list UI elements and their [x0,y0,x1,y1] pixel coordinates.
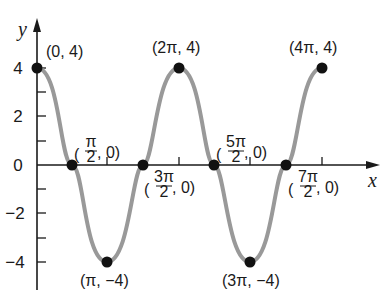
label-5pi-2-0: ( 5π 2 , 0) [216,133,267,165]
label-7pi-2-0: ( 7π 2 , 0) [288,168,339,200]
label-3pi-2-0: ( 3π 2 , 0) [144,168,195,200]
chart-container: 4 2 0 −2 −4 y x (0, 4) (2π, 4) (4π, 4) (… [0,0,390,303]
y-axis: 4 2 0 −2 −4 y [5,18,46,290]
svg-text:(: ( [144,181,150,198]
label-0-4: (0, 4) [46,43,83,60]
point-7pi-2-0 [281,160,292,171]
y-axis-label: y [16,18,27,41]
svg-text:2: 2 [160,183,169,200]
label-4pi-4: (4π, 4) [289,39,337,56]
svg-text:2: 2 [87,148,96,165]
label-pi-2-0: ( π 2 , 0) [74,133,120,165]
x-axis-label: x [367,169,377,191]
y-axis-arrow-icon [33,18,41,32]
y-tick-4: 4 [13,59,22,78]
svg-text:2: 2 [304,183,313,200]
cosine-chart: 4 2 0 −2 −4 y x (0, 4) (2π, 4) (4π, 4) (… [0,0,390,303]
point-3pi-2-0 [138,160,149,171]
x-axis-arrow-icon [366,161,380,169]
y-tick-neg2: −2 [5,204,24,223]
point-4pi-4 [317,63,328,74]
point-2pi-4 [174,63,185,74]
point-0-4 [32,63,43,74]
y-tick-neg4: −4 [5,253,24,272]
label-3pi-neg4: (3π, −4) [222,272,280,289]
svg-text:(: ( [216,146,222,163]
svg-text:(: ( [74,146,80,163]
y-tick-0: 0 [13,156,22,175]
svg-text:, 0): , 0) [316,179,339,196]
y-tick-2: 2 [13,107,22,126]
svg-text:2: 2 [232,148,241,165]
point-pi-neg4 [102,257,113,268]
svg-text:, 0): , 0) [172,179,195,196]
svg-text:, 0): , 0) [97,144,120,161]
svg-text:, 0): , 0) [244,144,267,161]
point-3pi-neg4 [245,257,256,268]
label-2pi-4: (2π, 4) [152,39,200,56]
label-pi-neg4: (π, −4) [80,272,129,289]
svg-text:(: ( [288,181,294,198]
